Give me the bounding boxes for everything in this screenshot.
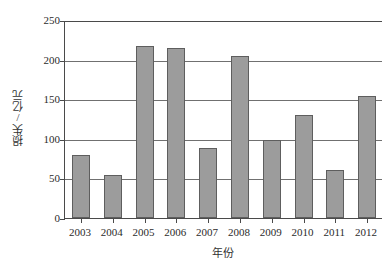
x-axis-tick-label: 2008 (223, 226, 255, 238)
bar (104, 175, 122, 218)
bar (199, 148, 217, 218)
x-axis-labels: 2003200420052006200720082009201020112012 (64, 226, 382, 242)
x-axis-tick (208, 218, 209, 223)
x-axis-tick-label: 2005 (128, 226, 160, 238)
x-axis-tick-label: 2010 (287, 226, 319, 238)
x-axis-title: 年份 (64, 247, 382, 260)
x-axis-tick-label: 2006 (159, 226, 191, 238)
y-axis-tick-label: 150 (16, 94, 60, 105)
y-axis-tick-label: 50 (16, 173, 60, 184)
x-axis-tick-label: 2011 (318, 226, 350, 238)
x-axis-tick (367, 218, 368, 223)
bar (136, 46, 154, 218)
x-axis-tick (81, 218, 82, 223)
bar (358, 96, 376, 218)
bar-chart: 损失/亿元 050100150200250 200320042005200620… (0, 0, 392, 278)
bars-layer (65, 21, 382, 218)
x-axis-tick (176, 218, 177, 223)
x-axis-tick (272, 218, 273, 223)
y-axis-tick-label: 100 (16, 134, 60, 145)
bar (231, 56, 249, 218)
x-axis-tick-label: 2009 (255, 226, 287, 238)
x-axis-tick (304, 218, 305, 223)
bar (263, 140, 281, 218)
y-axis-tick-label: 250 (16, 15, 60, 26)
x-axis-tick (113, 218, 114, 223)
y-axis-tick-label: 0 (16, 213, 60, 224)
bar (326, 170, 344, 218)
bar (72, 155, 90, 218)
y-axis-tick (60, 219, 65, 220)
x-axis-tick-label: 2012 (350, 226, 382, 238)
x-axis-tick-label: 2007 (191, 226, 223, 238)
x-axis-tick-label: 2004 (96, 226, 128, 238)
x-axis-tick-label: 2003 (64, 226, 96, 238)
bar (295, 115, 313, 218)
x-axis-tick (335, 218, 336, 223)
x-axis-tick (145, 218, 146, 223)
y-axis-tick-label: 200 (16, 55, 60, 66)
plot-area (64, 21, 382, 219)
bar (167, 48, 185, 218)
x-axis-tick (240, 218, 241, 223)
